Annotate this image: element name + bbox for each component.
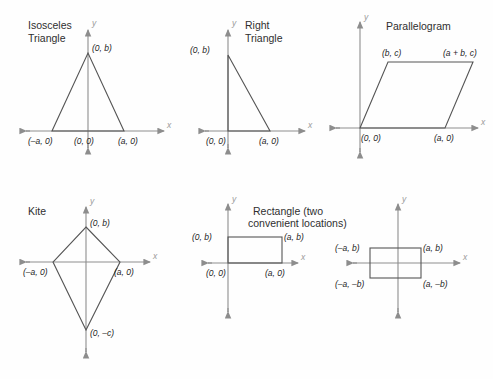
y-axis-label: y (231, 194, 237, 204)
vertex-label-bottom-right: (a, 0) (434, 133, 454, 143)
vertex-label-origin: (0, 0) (74, 136, 94, 146)
right-triangle-shape (228, 55, 270, 131)
panel-title-line-2: Triangle (28, 32, 66, 44)
panel-isosceles-triangle: x y Isosceles Triangle (0, b) (–a, 0) (0… (0, 0, 175, 190)
panel-rectangle-corner-at-origin: x y Rectangle (two convenient locations)… (175, 190, 335, 379)
vertex-label-origin: (0, 0) (206, 136, 226, 146)
panel-title-line-1: Kite (28, 205, 46, 217)
vertex-label-top-left: (–a, b) (335, 243, 360, 253)
x-axis-label: x (152, 251, 158, 261)
vertex-label-top-left: (b, c) (382, 48, 402, 58)
vertex-label-top-right: (a + b, c) (443, 48, 477, 58)
parallelogram-shape (360, 62, 473, 128)
vertex-label-bottom-left: (–a, –b) (335, 279, 364, 289)
panel-title-line-2: convenient locations) (248, 217, 347, 229)
vertex-label-top-left: (0, b) (192, 232, 212, 242)
vertex-label-apex: (0, b) (92, 43, 112, 53)
y-axis-label: y (231, 18, 237, 28)
rectangle-shape (228, 237, 282, 263)
panel-parallelogram: x y Parallelogram (b, c) (a + b, c) (0, … (330, 0, 493, 190)
vertex-label-bottom-right: (a, 0) (265, 268, 285, 278)
vertex-label-bottom-right: (a, –b) (423, 279, 448, 289)
panel-title-line-1: Rectangle (two (253, 205, 323, 217)
vertex-label-top-right: (a, b) (284, 232, 304, 242)
x-axis-label: x (300, 252, 306, 262)
vertex-label-origin: (0, 0) (206, 268, 226, 278)
panel-kite: x y Kite (0, b) (–a, 0) (a, 0) (0, –c) (0, 190, 175, 379)
vertex-label-right: (a, 0) (114, 267, 134, 277)
vertex-label-right: (a, 0) (118, 136, 138, 146)
y-axis-label: y (401, 194, 407, 204)
vertex-label-bottom: (0, –c) (90, 328, 114, 338)
vertex-label-right: (a, 0) (259, 136, 279, 146)
y-axis-label: y (89, 196, 95, 206)
vertex-label-left: (–a, 0) (23, 267, 48, 277)
panel-title-line-1: Right (245, 19, 270, 31)
panel-right-triangle: x y Right Triangle (0, b) (0, 0) (a, 0) (165, 0, 330, 190)
y-axis-label: y (363, 12, 369, 22)
panel-title-line-1: Parallelogram (386, 20, 451, 32)
vertex-label-origin: (0, 0) (361, 133, 381, 143)
vertex-label-top: (0, b) (90, 218, 110, 228)
y-axis-label: y (91, 18, 97, 28)
x-axis-label: x (307, 120, 313, 130)
vertex-label-top-right: (a, b) (423, 243, 443, 253)
x-axis-label: x (480, 117, 486, 127)
vertex-label-top: (0, b) (190, 45, 210, 55)
panel-title-line-1: Isosceles (28, 19, 72, 31)
coordinate-geometry-figure: x y Isosceles Triangle (0, b) (–a, 0) (0… (0, 0, 493, 379)
vertex-label-left: (–a, 0) (28, 136, 53, 146)
x-axis-label: x (462, 252, 468, 262)
panel-rectangle-centered-at-origin: x y (–a, b) (a, b) (–a, –b) (a, –b) (335, 190, 493, 379)
panel-title-line-2: Triangle (245, 32, 283, 44)
